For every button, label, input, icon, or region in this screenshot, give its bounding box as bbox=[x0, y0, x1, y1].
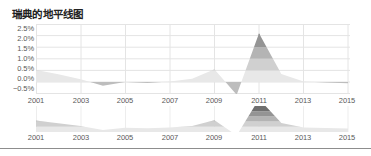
x-tick-main-1: 2003 bbox=[73, 96, 89, 105]
x-tick-strip-1: 2003 bbox=[73, 133, 89, 142]
x-tick-strip-4: 2009 bbox=[206, 133, 222, 142]
x-tick-strip-5: 2011 bbox=[251, 133, 267, 142]
negative-area bbox=[36, 33, 348, 94]
y-tick-6: −0.5% bbox=[13, 84, 34, 93]
y-tick-0: 2.5% bbox=[17, 24, 34, 33]
x-tick-strip-0: 2001 bbox=[28, 133, 44, 142]
main-plot-area: 2.5% 2.0% 1.5% 1.0% 0.5% 0.0% −0.5% bbox=[0, 24, 371, 96]
horizon-strip-svg bbox=[36, 106, 350, 132]
x-axis-labels-strip: 2001 2003 2005 2007 2009 2011 2013 2015 bbox=[36, 133, 350, 145]
chart-title: 瑞典的地平线图 bbox=[12, 6, 83, 21]
positive-area-bands bbox=[36, 33, 348, 94]
x-tick-main-7: 2015 bbox=[339, 96, 355, 105]
y-tick-3: 1.0% bbox=[17, 54, 34, 63]
x-tick-strip-3: 2007 bbox=[162, 133, 178, 142]
x-tick-main-3: 2007 bbox=[162, 96, 178, 105]
strip-bands bbox=[36, 106, 348, 132]
x-tick-strip-6: 2013 bbox=[295, 133, 311, 142]
x-tick-strip-2: 2005 bbox=[117, 133, 133, 142]
x-tick-main-4: 2009 bbox=[206, 96, 222, 105]
horizon-strip-area bbox=[36, 106, 350, 132]
y-tick-5: 0.0% bbox=[17, 74, 34, 83]
y-tick-4: 0.5% bbox=[17, 64, 34, 73]
bottom-divider bbox=[0, 148, 371, 149]
x-tick-main-2: 2005 bbox=[117, 96, 133, 105]
x-tick-main-5: 2011 bbox=[251, 96, 267, 105]
main-chart-svg bbox=[36, 24, 350, 94]
y-axis-labels: 2.5% 2.0% 1.5% 1.0% 0.5% 0.0% −0.5% bbox=[0, 24, 34, 94]
y-tick-1: 2.0% bbox=[17, 34, 34, 43]
x-tick-main-0: 2001 bbox=[28, 96, 44, 105]
gridlines bbox=[36, 24, 350, 94]
x-tick-main-6: 2013 bbox=[295, 96, 311, 105]
y-tick-2: 1.5% bbox=[17, 44, 34, 53]
x-tick-strip-7: 2015 bbox=[339, 133, 355, 142]
horizon-chart-figure: 瑞典的地平线图 2.5% 2.0% 1.5% 1.0% 0.5% 0.0% −0… bbox=[0, 0, 371, 156]
